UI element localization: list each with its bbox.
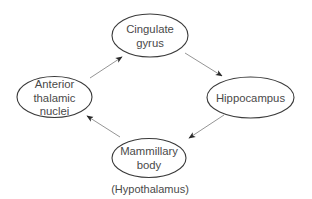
node-hippocampus: Hippocampus: [207, 77, 294, 118]
node-mammillary-body: Mammillary body (Hypothalamus): [111, 139, 189, 196]
node-anterior-label-line-1: Anterior: [35, 78, 75, 90]
edges: [87, 53, 224, 138]
node-anterior-label-line-2: thalamic: [33, 92, 75, 104]
arrow-cingulate-to-hippocampus: [185, 53, 222, 76]
node-hippocampus-label: Hippocampus: [216, 92, 285, 104]
papez-circuit-diagram: Cingulate gyrus Hippocampus Mammillary b…: [0, 0, 312, 199]
node-mammillary-label-line-2: body: [137, 159, 162, 171]
node-cingulate-label-line-1: Cingulate: [126, 23, 174, 35]
node-anterior-thalamic-nuclei: Anterior thalamic nuclei: [17, 77, 92, 118]
node-cingulate-ellipse: [112, 14, 188, 57]
node-cingulate-label-line-2: gyrus: [136, 37, 164, 49]
node-mammillary-sublabel: (Hypothalamus): [111, 183, 189, 195]
node-cingulate-gyrus: Cingulate gyrus: [112, 14, 188, 57]
node-mammillary-label-line-1: Mammillary: [120, 145, 178, 157]
arrow-anterior-to-cingulate: [90, 57, 122, 78]
node-anterior-label-line-3: nuclei: [40, 105, 70, 117]
arrow-mammillary-to-anterior: [87, 116, 120, 137]
arrow-hippocampus-to-mammillary: [189, 115, 224, 138]
